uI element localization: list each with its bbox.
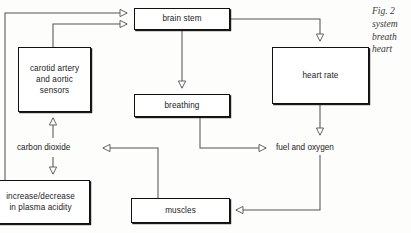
caption-line-4: heart	[372, 43, 411, 56]
edge-brainstem-to-heartrate	[230, 19, 320, 41]
caption-line-1: Fig. 2	[372, 5, 411, 18]
node-fuel-and-oxygen[interactable]: fuel and oxygen	[276, 141, 360, 154]
figure-canvas: brain stem carotid artery and aortic sen…	[0, 0, 411, 233]
node-muscles[interactable]: muscles	[131, 198, 230, 223]
caption-line-2: system	[372, 18, 411, 31]
edge-breathing-to-fuel	[200, 117, 266, 148]
edge-carotid-to-brainstem	[53, 24, 127, 47]
node-brain-stem[interactable]: brain stem	[134, 8, 230, 30]
edge-muscles-to-co2	[103, 148, 158, 198]
node-breathing[interactable]: breathing	[134, 94, 230, 117]
edge-fuel-to-muscles	[236, 155, 320, 210]
node-carbon-dioxide[interactable]: carbon dioxide	[17, 141, 96, 154]
figure-caption: Fig. 2 system breath heart	[372, 5, 411, 56]
node-heart-rate[interactable]: heart rate	[272, 47, 369, 104]
caption-line-3: breath	[372, 31, 411, 44]
node-carotid-sensors[interactable]: carotid artery and aortic sensors	[18, 47, 91, 112]
node-plasma-acidity[interactable]: increase/decrease in plasma acidity	[0, 180, 90, 224]
